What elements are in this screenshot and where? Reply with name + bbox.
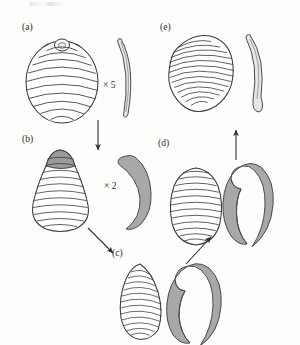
panel-label-d: (d) <box>158 138 169 149</box>
hook-d <box>223 163 273 247</box>
hook-e <box>246 35 263 112</box>
arrow-b-to-c <box>88 228 113 253</box>
panel-c <box>120 264 221 345</box>
shell-e <box>169 36 234 112</box>
magnification-label-a-to-b: × 5 <box>103 80 115 90</box>
shell-a <box>26 39 98 123</box>
magnification-label-b-to-c: × 2 <box>104 181 116 191</box>
hook-b <box>118 155 151 229</box>
panel-b <box>33 150 152 232</box>
panel-d <box>170 163 273 247</box>
hook-c <box>167 264 222 345</box>
panel-label-a: (a) <box>22 22 33 33</box>
shell-d <box>170 168 221 245</box>
shell-b <box>33 150 89 232</box>
panel-label-e: (e) <box>160 22 171 33</box>
panel-label-b: (b) <box>22 134 33 145</box>
shell-c <box>120 264 162 339</box>
developmental-sequence-figure: (a) (e) <box>0 0 300 345</box>
hook-a <box>118 39 131 118</box>
panel-e <box>169 35 263 112</box>
panel-label-c: (c) <box>112 248 123 259</box>
